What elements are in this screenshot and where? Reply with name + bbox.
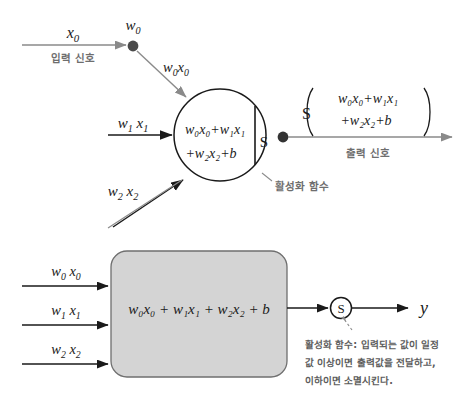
label-x0: x0 — [66, 24, 80, 44]
weight-node-w0-dot — [128, 41, 139, 52]
note-line-3: 이하이면 소멸시킨다. — [305, 375, 393, 386]
box-formula: w₀x₀ + w₁x₁ + w₂x₂ + b — [128, 301, 270, 317]
label-input-w2x2: w2 x2 — [108, 183, 139, 202]
note-line-2: 값 이상이면 출력값을 전달하고, — [305, 357, 436, 368]
neuron-formula-line1: w₀x₀+w₁x₁ — [185, 122, 245, 137]
output-expression-line1: w₀x₀+w₁x₁ — [338, 91, 398, 106]
output-expression-line2: +w₂x₂+b — [340, 113, 391, 128]
diagram-canvas: x0 입력 신호 w0 w0x0 w1 x1 w2 x2 w₀x₀+w₁x₁ +… — [0, 0, 465, 406]
label-input-signal: 입력 신호 — [51, 52, 95, 64]
diagram-svg: x0 입력 신호 w0 w0x0 w1 x1 w2 x2 w₀x₀+w₁x₁ +… — [0, 0, 465, 406]
output-paren-right — [424, 88, 430, 136]
activation-symbol-bottom: S — [337, 301, 344, 316]
activation-caption: 활성화 함수 — [275, 180, 329, 192]
label-w0: w0 — [125, 17, 140, 36]
output-node-dot — [278, 132, 289, 143]
label-edge-w0x0: w0x0 — [163, 59, 189, 78]
connector-top-to-bottom — [108, 180, 182, 228]
bottom-label-input-2: w2 x2 — [51, 341, 81, 360]
note-line-1: 활성화 함수: 입력되는 값이 일정 — [305, 339, 439, 350]
bottom-label-input-1: w1 x1 — [51, 302, 81, 321]
neuron-formula-line2: +w₂x₂+b — [185, 146, 236, 161]
output-symbol-S: S — [302, 105, 311, 122]
bottom-label-input-0: w0 x0 — [51, 263, 81, 282]
note-leader-line — [344, 319, 352, 330]
label-input-w1x1: w1 x1 — [118, 115, 149, 134]
activation-symbol-top: S — [260, 134, 268, 150]
output-label-y: y — [418, 298, 428, 318]
label-output-signal: 출력 신호 — [346, 147, 390, 159]
activation-caption-leader — [262, 173, 272, 181]
